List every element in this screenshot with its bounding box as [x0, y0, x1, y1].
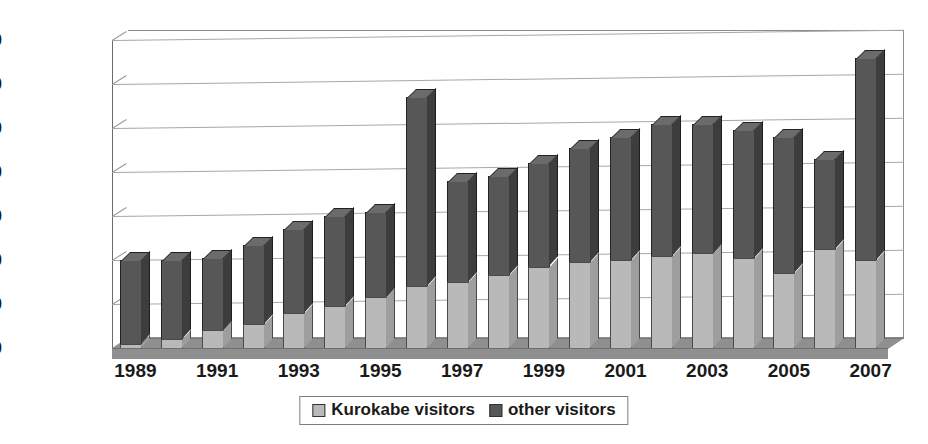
x-axis-label-1995: 1995 [350, 360, 410, 382]
x-axis-label-2001: 2001 [596, 360, 656, 382]
bar-segment-kurokabe-visitors [447, 282, 469, 348]
bar-side-face [876, 251, 885, 348]
bar-side-face [754, 249, 763, 348]
y-axis-label: 6,000 [0, 73, 2, 95]
bar-side-face [713, 115, 722, 254]
floor-front-face [112, 348, 888, 359]
bar-side-face [386, 288, 395, 348]
y-axis-label: 3,000 [0, 205, 2, 227]
x-axis-label-2005: 2005 [759, 360, 819, 382]
bar-2004[interactable] [733, 130, 755, 348]
bar-segment-kurokabe-visitors [161, 339, 183, 348]
bar-1989[interactable] [120, 260, 142, 348]
bar-1992[interactable] [243, 245, 265, 348]
legend-item[interactable]: other visitors [489, 400, 616, 420]
chart-floor [112, 348, 888, 359]
bar-side-face [264, 236, 273, 324]
bar-side-face [794, 128, 803, 273]
stacked-bar-chart: 7,0006,0005,0004,0003,0002,0001,0000 198… [0, 0, 928, 444]
y-axis-label: 0 [0, 337, 2, 359]
y-axis-label: 5,000 [0, 117, 2, 139]
legend-item[interactable]: Kurokabe visitors [312, 400, 475, 420]
bar-segment-kurokabe-visitors [243, 324, 265, 348]
bar-side-face [304, 220, 313, 313]
x-axis-label-2007: 2007 [841, 360, 901, 382]
bar-side-face [345, 297, 354, 348]
bar-segment-other-visitors [855, 58, 877, 260]
kurokabe-swatch-icon [312, 404, 325, 417]
bar-segment-kurokabe-visitors [855, 260, 877, 348]
bar-2006[interactable] [814, 159, 836, 348]
bar-2005[interactable] [773, 137, 795, 348]
x-axis-label-2003: 2003 [677, 360, 737, 382]
bar-1997[interactable] [447, 181, 469, 348]
bar-1998[interactable] [488, 176, 510, 348]
bar-side-face [672, 247, 681, 348]
bar-side-face [304, 304, 313, 348]
bar-side-face [590, 139, 599, 262]
bar-1994[interactable] [324, 216, 346, 348]
bar-segment-other-visitors [733, 130, 755, 258]
bar-segment-other-visitors [610, 137, 632, 260]
bar-segment-other-visitors [324, 216, 346, 306]
bar-1999[interactable] [528, 163, 550, 348]
bar-segment-kurokabe-visitors [610, 260, 632, 348]
legend-label: other visitors [508, 400, 616, 420]
bar-side-face [876, 49, 885, 260]
bar-segment-kurokabe-visitors [814, 249, 836, 348]
bar-side-face [713, 244, 722, 348]
bar-side-face [386, 203, 395, 298]
bar-segment-other-visitors [243, 245, 265, 324]
y-axis-label: 1,000 [0, 293, 2, 315]
x-axis-label-1999: 1999 [514, 360, 574, 382]
bar-side-face [427, 88, 436, 286]
bar-side-face [835, 150, 844, 249]
bar-segment-kurokabe-visitors [120, 344, 142, 348]
x-axis-labels-group: 1989199119931995199719992001200320052007 [112, 360, 888, 386]
y-axis-label: 4,000 [0, 161, 2, 183]
bar-segment-kurokabe-visitors [528, 267, 550, 348]
bar-2002[interactable] [651, 124, 673, 348]
bar-side-face [672, 115, 681, 256]
bar-side-face [549, 154, 558, 266]
bar-1990[interactable] [161, 260, 183, 348]
bar-segment-other-visitors [528, 163, 550, 266]
chart-legend: Kurokabe visitorsother visitors [299, 396, 628, 425]
bar-segment-other-visitors [814, 159, 836, 249]
bar-segment-kurokabe-visitors [283, 313, 305, 348]
bar-side-face [549, 258, 558, 348]
bar-segment-other-visitors [161, 260, 183, 339]
bar-side-face [223, 249, 232, 331]
bar-1995[interactable] [365, 212, 387, 348]
bar-segment-other-visitors [406, 97, 428, 286]
bar-side-face [754, 121, 763, 258]
bar-1996[interactable] [406, 97, 428, 348]
bar-segment-other-visitors [569, 148, 591, 262]
bar-2000[interactable] [569, 148, 591, 348]
bar-side-face [427, 277, 436, 348]
bar-side-face [631, 251, 640, 348]
bar-side-face [590, 253, 599, 348]
bar-2007[interactable] [855, 58, 877, 348]
bar-segment-kurokabe-visitors [202, 330, 224, 348]
bar-1991[interactable] [202, 258, 224, 348]
bar-segment-other-visitors [773, 137, 795, 273]
x-axis-label-1997: 1997 [432, 360, 492, 382]
bar-2003[interactable] [692, 124, 714, 348]
bar-2001[interactable] [610, 137, 632, 348]
bar-segment-other-visitors [692, 124, 714, 254]
bar-side-face [468, 273, 477, 348]
bar-side-face [631, 128, 640, 260]
bar-segment-kurokabe-visitors [406, 286, 428, 348]
bar-segment-other-visitors [283, 229, 305, 313]
bar-segment-other-visitors [488, 176, 510, 275]
bar-side-face [468, 172, 477, 282]
x-axis-label-1993: 1993 [269, 360, 329, 382]
x-axis-label-1989: 1989 [105, 360, 165, 382]
bar-side-face [182, 251, 191, 339]
bar-segment-kurokabe-visitors [365, 297, 387, 348]
bar-1993[interactable] [283, 229, 305, 348]
plot-area [112, 40, 888, 348]
bar-segment-other-visitors [447, 181, 469, 282]
y-axis-label: 7,000 [0, 29, 2, 51]
